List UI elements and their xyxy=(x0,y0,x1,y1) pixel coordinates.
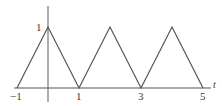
x-axis-tick-label-minus-1: −1 xyxy=(10,91,22,102)
y-axis-tick-label-1: 1 xyxy=(36,22,42,33)
triangle-wave-polyline xyxy=(17,27,203,88)
x-axis-tick-label-5: 5 xyxy=(200,91,206,102)
x-axis-name-label: t xyxy=(213,80,216,90)
x-axis-tick-label-3: 3 xyxy=(138,91,144,102)
plot-canvas xyxy=(0,0,222,106)
x-axis-tick-label-1: 1 xyxy=(76,91,82,102)
triangle-wave-figure: 1 −1 1 3 5 t xyxy=(0,0,222,106)
